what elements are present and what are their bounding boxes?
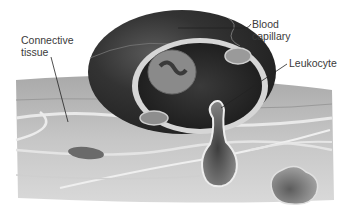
- label-leukocyte: Leukocyte: [289, 57, 337, 69]
- label-connective-tissue: Connective tissue: [21, 34, 74, 58]
- label-blood-capillary: Blood capillary: [252, 18, 291, 42]
- capillary-diagram: [0, 0, 364, 213]
- blood-capillary: [88, 10, 276, 134]
